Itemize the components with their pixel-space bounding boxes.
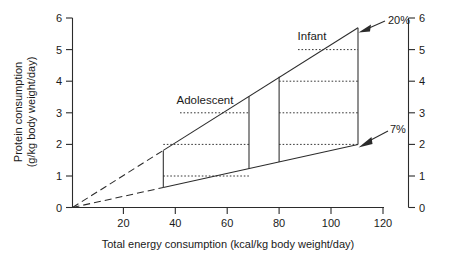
x-tick-label-80: 80 [273, 217, 285, 229]
x-tick-label-60: 60 [221, 217, 233, 229]
chart-svg: 6 5 4 3 2 1 0 20 40 60 80 100 120 [0, 0, 449, 264]
right-tick-label-5: 5 [419, 44, 425, 56]
x-tick-label-40: 40 [169, 217, 181, 229]
series-7-percent-solid-segment [163, 145, 358, 188]
y-axis-title: Protein consumption (g/kg body weight/da… [12, 57, 37, 168]
series-20-percent [73, 28, 359, 208]
left-tick-label-5: 5 [56, 44, 62, 56]
right-y-axis: 6 5 4 3 2 1 0 [409, 12, 426, 214]
annotation-label-7-percent: 7% [390, 123, 406, 135]
annotation-20-percent: 20% [359, 14, 411, 33]
annotation-7-percent-arrowhead [359, 137, 373, 148]
y-axis-title-line2: (g/kg body weight/day) [25, 57, 37, 168]
left-tick-label-3: 3 [56, 107, 62, 119]
annotation-label-20-percent: 20% [388, 14, 410, 26]
left-tick-label-2: 2 [56, 138, 62, 150]
left-tick-label-1: 1 [56, 170, 62, 182]
right-tick-label-3: 3 [419, 107, 425, 119]
annotation-20-percent-arrowhead [359, 25, 372, 33]
x-axis-title: Total energy consumption (kcal/kg body w… [102, 238, 355, 250]
right-tick-label-4: 4 [419, 75, 425, 87]
series-20-percent-solid-segment [163, 28, 358, 151]
left-y-axis: 6 5 4 3 2 1 0 [56, 12, 73, 214]
x-tick-label-120: 120 [374, 217, 392, 229]
region-infant: Infant [279, 28, 358, 162]
right-tick-label-0: 0 [419, 202, 425, 214]
left-tick-label-6: 6 [56, 12, 62, 24]
left-tick-label-4: 4 [56, 75, 62, 87]
region-label-adolescent: Adolescent [177, 94, 235, 106]
x-axis: 20 40 60 80 100 120 [73, 208, 393, 230]
y-axis-title-line1: Protein consumption [12, 62, 24, 162]
right-tick-label-6: 6 [419, 12, 425, 24]
series-7-percent [73, 145, 359, 208]
x-tick-label-100: 100 [322, 217, 340, 229]
left-tick-label-0: 0 [56, 202, 62, 214]
series-20-percent-dashed-segment [73, 150, 164, 207]
right-tick-label-1: 1 [419, 170, 425, 182]
series-7-percent-dashed-segment [73, 188, 164, 208]
x-tick-label-20: 20 [117, 217, 129, 229]
right-tick-label-2: 2 [419, 138, 425, 150]
chart-figure: 6 5 4 3 2 1 0 20 40 60 80 100 120 [0, 0, 449, 264]
region-adolescent: Adolescent [163, 94, 249, 188]
region-label-infant: Infant [298, 30, 328, 42]
annotation-7-percent: 7% [359, 123, 407, 148]
